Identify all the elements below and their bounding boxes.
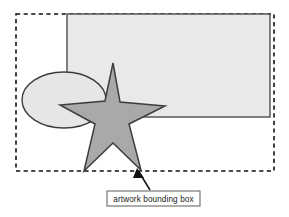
callout-label: artwork bounding box [113, 195, 193, 204]
figure-canvas: artwork bounding box [0, 0, 289, 217]
artwork-diagram: artwork bounding box [0, 0, 289, 217]
